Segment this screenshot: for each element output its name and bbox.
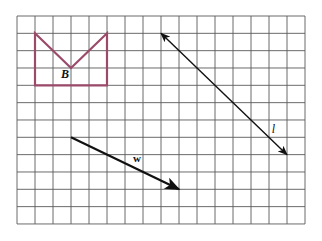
vector-w-label: w	[133, 152, 141, 164]
line-l	[161, 33, 287, 154]
grid-diagram: B l w	[0, 0, 322, 241]
shape-b-label: B	[60, 67, 69, 81]
line-l-label: l	[272, 122, 276, 136]
grid-lines	[17, 16, 305, 224]
